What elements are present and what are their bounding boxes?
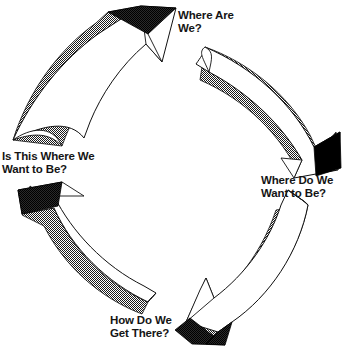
stage-label-is-this-where-we-want-to-be: Is This Where We Want to Be? <box>2 150 95 175</box>
stage-label-where-are-we: Where Are We? <box>178 9 234 34</box>
arrow-pointing-to-where-do-we-want-to-be <box>196 47 341 178</box>
arrow-pointing-to-how-do-we-get-there <box>175 190 308 345</box>
arrow-pointing-to-is-this-where-we-want-to-be <box>18 182 156 314</box>
stage-label-how-do-we-get-there: How Do We Get There? <box>110 314 172 339</box>
stage-label-where-do-we-want-to-be: Where Do We Want to Be? <box>261 174 333 199</box>
arrow-pointing-to-where-are-we <box>13 6 176 146</box>
